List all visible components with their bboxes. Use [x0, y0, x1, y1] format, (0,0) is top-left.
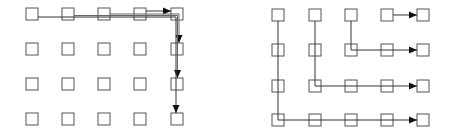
arrowhead-icon [409, 117, 417, 124]
node-2-3 [98, 113, 110, 125]
arrowhead-icon [409, 12, 417, 19]
arrowhead-icon [174, 70, 181, 78]
node-0-2 [26, 78, 38, 90]
node-4-1 [417, 44, 429, 56]
node-3-3 [134, 113, 146, 125]
node-2-1 [98, 43, 110, 55]
node-4-2 [171, 78, 183, 90]
left-path-3 [38, 17, 180, 113]
node-2-0 [98, 8, 110, 20]
arrowhead-icon [163, 8, 171, 15]
node-4-3 [417, 114, 429, 126]
node-0-1 [26, 43, 38, 55]
node-3-1 [134, 43, 146, 55]
node-0-3 [26, 113, 38, 125]
node-4-2 [417, 80, 429, 92]
node-1-2 [62, 78, 74, 90]
left-path-2 [74, 16, 181, 79]
node-1-3 [62, 113, 74, 125]
arrowhead-icon [409, 83, 417, 90]
left-path-0 [146, 8, 171, 15]
node-3-2 [134, 78, 146, 90]
node-3-0 [381, 9, 393, 21]
node-4-3 [171, 113, 183, 125]
arrowhead-icon [173, 105, 180, 113]
node-0-0 [26, 8, 38, 20]
right-path-0 [393, 12, 417, 19]
right-path-2 [315, 21, 417, 90]
left-grid [26, 8, 183, 126]
node-2-2 [98, 78, 110, 90]
node-4-0 [417, 9, 429, 21]
node-2-0 [345, 9, 357, 21]
node-0-0 [272, 9, 284, 21]
arrowhead-icon [409, 47, 417, 54]
node-1-0 [309, 9, 321, 21]
right-path-3 [278, 21, 417, 124]
node-1-0 [62, 8, 74, 20]
routing-diagram [0, 0, 450, 132]
right-grid [272, 9, 429, 126]
routing-diagram-canvas [0, 0, 450, 132]
node-1-1 [62, 43, 74, 55]
arrowhead-icon [176, 35, 183, 43]
